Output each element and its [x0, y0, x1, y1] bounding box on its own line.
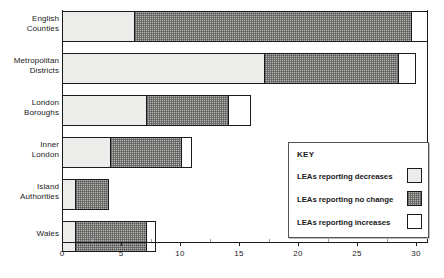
legend-swatch-no-change-icon	[407, 191, 422, 206]
stacked-bar	[62, 221, 156, 252]
x-axis-tick-label: 25	[352, 249, 361, 258]
legend-swatch-decreases-icon	[407, 168, 422, 183]
segment-decreases	[63, 180, 75, 209]
segment-no-change	[75, 180, 108, 209]
legend-item-decreases: LEAs reporting decreases	[297, 168, 422, 184]
stacked-bar	[62, 95, 251, 126]
x-axis-tick-label: 20	[293, 249, 302, 258]
category-label-english-counties: English Counties	[27, 14, 59, 33]
x-axis-minor-tick	[269, 239, 270, 242]
x-axis-tick	[121, 242, 122, 246]
stacked-bar	[62, 179, 109, 210]
stacked-bar-chart: English Counties Metropolitan Districts …	[0, 0, 444, 278]
segment-decreases	[63, 222, 75, 251]
category-label-wales: Wales	[37, 229, 59, 239]
category-label-metropolitan-districts: Metropolitan Districts	[14, 56, 59, 75]
x-axis-minor-tick	[210, 239, 211, 242]
x-axis-tick-label: 0	[60, 249, 65, 258]
legend-swatch-increases-icon	[407, 214, 422, 229]
category-label-island-authorities: Island Authorities	[20, 182, 59, 201]
x-axis-minor-tick	[92, 239, 93, 242]
stacked-bar	[62, 137, 192, 168]
category-label-inner-london: Inner London	[32, 140, 59, 159]
segment-decreases	[63, 54, 264, 83]
category-label-london-boroughs: London Boroughs	[24, 98, 59, 117]
x-axis-tick	[239, 242, 240, 246]
segment-no-change	[134, 12, 411, 41]
segment-decreases	[63, 138, 110, 167]
x-axis-minor-tick	[151, 239, 152, 242]
segment-increases	[411, 12, 427, 41]
x-axis-minor-tick	[328, 239, 329, 242]
segment-decreases	[63, 96, 146, 125]
x-axis-tick	[357, 242, 358, 246]
segment-no-change	[264, 54, 399, 83]
legend-item-label: LEAs reporting increases	[297, 218, 390, 227]
x-axis-tick-label: 5	[119, 249, 124, 258]
stacked-bar	[62, 11, 428, 42]
x-axis-tick	[62, 242, 63, 246]
segment-increases	[398, 54, 415, 83]
legend-title: KEY	[297, 150, 314, 159]
segment-no-change	[75, 222, 146, 251]
x-axis-tick	[180, 242, 181, 246]
legend-item-increases: LEAs reporting increases	[297, 214, 422, 230]
x-axis-line	[62, 242, 428, 243]
chart-legend: KEY LEAs reporting decreases LEAs report…	[288, 142, 429, 238]
segment-decreases	[63, 12, 134, 41]
legend-item-label: LEAs reporting decreases	[297, 172, 392, 181]
x-axis-minor-tick	[387, 239, 388, 242]
x-axis-tick	[416, 242, 417, 246]
x-axis-tick-label: 10	[175, 249, 184, 258]
stacked-bar	[62, 53, 416, 84]
segment-increases	[146, 222, 156, 251]
legend-item-no-change: LEAs reporting no change	[297, 191, 422, 207]
x-axis-tick-label: 30	[411, 249, 420, 258]
legend-item-label: LEAs reporting no change	[297, 195, 393, 204]
x-axis-tick-label: 15	[234, 249, 243, 258]
x-axis-tick	[298, 242, 299, 246]
segment-increases	[228, 96, 250, 125]
segment-no-change	[146, 96, 229, 125]
segment-no-change	[110, 138, 181, 167]
segment-increases	[181, 138, 191, 167]
